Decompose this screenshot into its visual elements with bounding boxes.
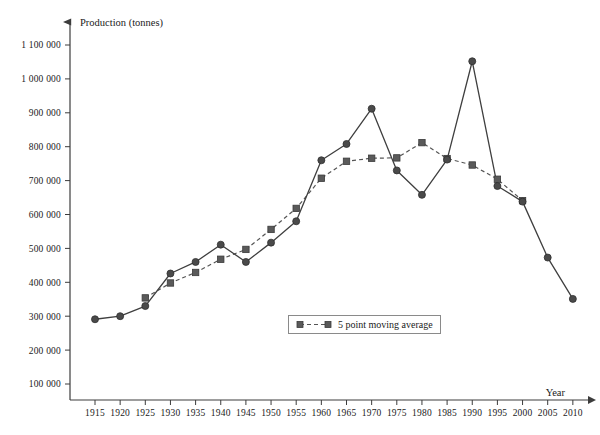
production-point xyxy=(494,183,501,190)
moving-average-point xyxy=(318,175,324,181)
chart-legend[interactable]: 5 point moving average xyxy=(288,315,441,334)
moving-average-point xyxy=(218,256,224,262)
x-tick-label: 1990 xyxy=(462,408,482,418)
production-point xyxy=(293,218,300,225)
production-point xyxy=(393,167,400,174)
x-tick-label: 1925 xyxy=(135,408,155,418)
production-line-chart: 100 000200 000300 000400 000500 000600 0… xyxy=(0,0,600,435)
y-tick-label: 500 000 xyxy=(29,244,61,254)
y-axis-ticks: 100 000200 000300 000400 000500 000600 0… xyxy=(21,40,70,389)
production-point xyxy=(192,258,199,265)
moving-average-markers xyxy=(142,139,526,301)
x-tick-label: 2005 xyxy=(538,408,558,418)
x-axis-arrow xyxy=(588,396,596,404)
moving-average-point xyxy=(368,155,374,161)
y-tick-label: 800 000 xyxy=(29,142,61,152)
production-point xyxy=(92,316,99,323)
axes-group xyxy=(70,22,596,404)
y-tick-label: 700 000 xyxy=(29,176,61,186)
production-point xyxy=(217,241,224,248)
x-axis-title: Year xyxy=(546,387,566,398)
moving-average-point xyxy=(167,280,173,286)
production-point xyxy=(544,254,551,261)
x-tick-label: 1915 xyxy=(85,408,105,418)
y-tick-label: 600 000 xyxy=(29,210,61,220)
legend-sample-icon xyxy=(296,320,332,329)
y-tick-label: 1 000 000 xyxy=(21,74,61,84)
production-line xyxy=(95,61,573,319)
production-point xyxy=(142,303,149,310)
y-axis-title: Production (tonnes) xyxy=(80,17,164,29)
x-tick-label: 1965 xyxy=(337,408,357,418)
y-tick-label: 400 000 xyxy=(29,278,61,288)
legend-label: 5 point moving average xyxy=(338,320,433,330)
x-tick-label: 1935 xyxy=(186,408,206,418)
x-tick-label: 2010 xyxy=(563,408,583,418)
production-point xyxy=(268,239,275,246)
moving-average-point xyxy=(469,162,475,168)
production-point xyxy=(519,198,526,205)
production-point xyxy=(469,58,476,65)
production-point xyxy=(343,140,350,147)
x-tick-label: 1945 xyxy=(236,408,256,418)
y-tick-label: 100 000 xyxy=(29,379,61,389)
moving-average-point xyxy=(494,176,500,182)
x-tick-label: 1950 xyxy=(261,408,281,418)
y-tick-label: 300 000 xyxy=(29,312,61,322)
y-tick-label: 900 000 xyxy=(29,108,61,118)
production-point xyxy=(444,156,451,163)
y-tick-label: 1 100 000 xyxy=(21,40,61,50)
moving-average-point xyxy=(142,295,148,301)
x-tick-label: 2000 xyxy=(513,408,533,418)
production-point xyxy=(418,191,425,198)
x-tick-label: 1980 xyxy=(412,408,432,418)
production-point xyxy=(368,105,375,112)
moving-average-point xyxy=(192,269,198,275)
production-point xyxy=(569,295,576,302)
moving-average-line xyxy=(145,143,522,298)
y-tick-label: 200 000 xyxy=(29,346,61,356)
production-point xyxy=(117,313,124,320)
x-tick-label: 1930 xyxy=(161,408,181,418)
moving-average-point xyxy=(243,246,249,252)
x-axis-ticks: 1915192019251930193519401945195019551960… xyxy=(85,400,583,418)
x-tick-label: 1940 xyxy=(211,408,231,418)
moving-average-point xyxy=(394,155,400,161)
production-point xyxy=(318,157,325,164)
x-tick-label: 1985 xyxy=(437,408,457,418)
moving-average-point xyxy=(268,226,274,232)
x-tick-label: 1975 xyxy=(387,408,407,418)
x-tick-label: 1995 xyxy=(487,408,507,418)
x-tick-label: 1970 xyxy=(362,408,382,418)
chart-container: 100 000200 000300 000400 000500 000600 0… xyxy=(0,0,600,435)
production-point xyxy=(167,270,174,277)
x-tick-label: 1960 xyxy=(311,408,331,418)
moving-average-point xyxy=(343,158,349,164)
moving-average-point xyxy=(293,205,299,211)
production-point xyxy=(242,258,249,265)
x-tick-label: 1955 xyxy=(286,408,306,418)
moving-average-point xyxy=(419,139,425,145)
x-tick-label: 1920 xyxy=(110,408,130,418)
